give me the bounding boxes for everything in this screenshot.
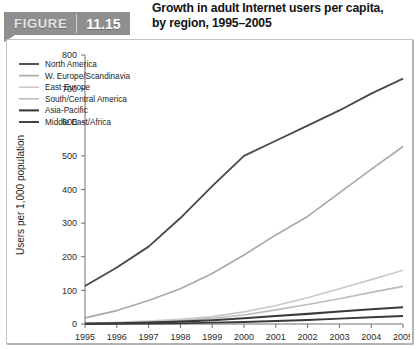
chart-frame: Users per 1,000 population 0100200300400…: [6, 39, 414, 345]
legend-item-1: W. Europe/Scandinavia: [19, 72, 131, 81]
series-line-5: [85, 316, 403, 324]
x-tick-label-2005: 2005: [393, 332, 410, 342]
legend-label-4: Asia-Pacific: [45, 106, 88, 115]
y-tick-label-300: 300: [62, 218, 77, 228]
figure-label: FIGURE: [4, 12, 76, 35]
legend-label-2: East Europe: [45, 83, 91, 92]
legend-label-5: Middle East/Africa: [45, 118, 111, 127]
y-axis-title: Users per 1,000 population: [15, 135, 26, 255]
legend-item-2: East Europe: [19, 83, 91, 92]
legend-label-0: North America: [45, 60, 97, 69]
legend-item-0: North America: [19, 60, 97, 69]
figure-title-line-1: Growth in adult Internet users per capit…: [152, 1, 414, 16]
y-tick-label-400: 400: [62, 185, 77, 195]
x-axis-ticks: 1995199619971998199920002001200220032004…: [75, 324, 410, 341]
line-chart: Users per 1,000 population 0100200300400…: [7, 40, 410, 341]
x-tick-label-1998: 1998: [170, 332, 190, 342]
y-tick-label-800: 800: [62, 50, 77, 60]
x-tick-label-2004: 2004: [361, 332, 381, 342]
legend-item-3: South/Central America: [19, 95, 127, 104]
legend-item-5: Middle East/Africa: [19, 118, 111, 127]
legend-item-4: Asia-Pacific: [19, 106, 88, 115]
x-tick-label-2003: 2003: [329, 332, 349, 342]
figure-number: 11.15: [77, 12, 129, 35]
legend-label-1: W. Europe/Scandinavia: [45, 72, 131, 81]
x-tick-label-2001: 2001: [266, 332, 286, 342]
y-tick-label-0: 0: [72, 319, 77, 329]
series-line-1: [85, 146, 403, 317]
figure-title-line-2: by region, 1995–2005: [152, 16, 414, 31]
x-tick-label-2000: 2000: [234, 332, 254, 342]
y-axis-title-group: Users per 1,000 population: [15, 135, 26, 255]
x-tick-label-1995: 1995: [75, 332, 95, 342]
x-tick-label-2002: 2002: [298, 332, 318, 342]
x-tick-label-1996: 1996: [107, 332, 127, 342]
figure-title: Growth in adult Internet users per capit…: [152, 1, 414, 31]
y-tick-label-100: 100: [62, 286, 77, 296]
x-tick-label-1999: 1999: [202, 332, 222, 342]
legend-label-3: South/Central America: [45, 95, 127, 104]
figure-header: FIGURE 11.15 Growth in adult Internet us…: [0, 0, 419, 42]
y-tick-label-500: 500: [62, 151, 77, 161]
y-tick-label-200: 200: [62, 252, 77, 262]
series-group: [85, 79, 403, 324]
figure-banner: FIGURE 11.15: [4, 12, 130, 35]
x-tick-label-1997: 1997: [139, 332, 159, 342]
